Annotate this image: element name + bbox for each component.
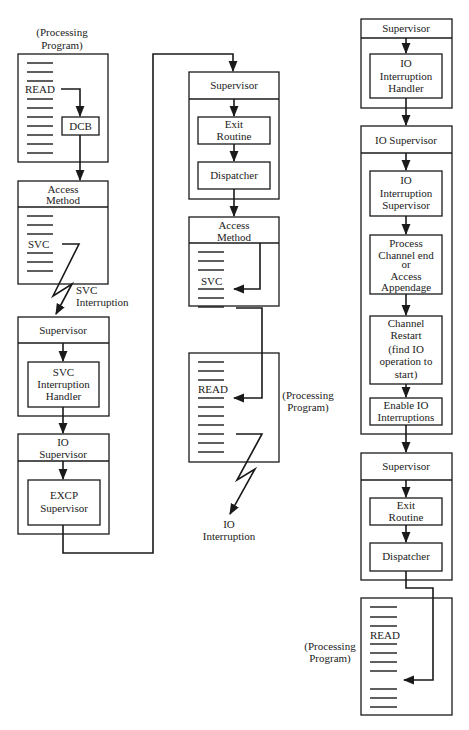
dispatcher-label: Dispatcher: [210, 169, 258, 181]
ios-label-1: IO: [400, 174, 412, 186]
io-interruption-label-1: IO: [223, 518, 235, 530]
supervisor-bottom-title: Supervisor: [382, 460, 430, 472]
enable-label-2: Interruptions: [378, 411, 435, 423]
dispatcher-to-program-arrow: [404, 571, 433, 680]
exit-routine-label-1: Exit: [225, 118, 243, 130]
return-to-svc-arrow: [234, 243, 260, 289]
io-supervisor-title: IO Supervisor: [375, 134, 437, 146]
enable-label-1: Enable IO: [384, 399, 429, 411]
excp-label-1: EXCP: [50, 489, 78, 501]
io-supervisor-title-1: IO: [57, 436, 69, 448]
access-method-title-2: Method: [46, 194, 81, 206]
ios-label-2: Interruption: [380, 187, 433, 199]
svc-handler-label-2: Interruption: [37, 378, 90, 390]
svc-interruption-label-2: Interruption: [76, 296, 129, 308]
supervisor-title: Supervisor: [210, 79, 258, 91]
read-to-dcb-arrow: [61, 89, 80, 116]
restart-label-5: start): [395, 368, 418, 381]
svc-handler-label-1: SVC: [53, 366, 74, 378]
io-flow-diagram: (Processing Program) READ DCB Access Met…: [0, 0, 469, 730]
column-2: Supervisor Exit Routine Dispatcher Acces…: [189, 72, 334, 542]
access-method-title-2: Method: [217, 231, 252, 243]
supervisor-top-title: Supervisor: [382, 22, 430, 34]
code-lines: [370, 607, 397, 707]
io-interruption-arrow: [230, 434, 262, 514]
proc-label-5: Appendage: [381, 281, 431, 293]
restart-label-4: operation to: [380, 355, 433, 367]
supervisor-title: Supervisor: [39, 324, 87, 336]
read-statement: READ: [198, 383, 228, 395]
svc-statement: SVC: [28, 238, 49, 250]
restart-label-1: Channel: [388, 317, 425, 329]
exit-routine-label-2: Routine: [217, 130, 252, 142]
proc-label-1: Process: [389, 237, 423, 249]
svc-statement: SVC: [201, 275, 222, 287]
processing-program-caption-2: Program): [287, 401, 329, 414]
exit-routine-label-1: Exit: [397, 499, 415, 511]
read-statement: READ: [370, 629, 400, 641]
code-lines: [27, 63, 53, 153]
ios-label-3: Supervisor: [382, 199, 430, 211]
proc-label-3: or: [401, 258, 411, 270]
io-supervisor-title-2: Supervisor: [39, 448, 87, 460]
code-lines: [198, 362, 224, 452]
processing-program-caption-2: Program): [309, 652, 351, 665]
access-method-title-1: Access: [218, 219, 249, 231]
excp-label-2: Supervisor: [40, 502, 88, 514]
svc-handler-label-3: Handler: [46, 390, 82, 402]
dcb-label: DCB: [69, 120, 92, 132]
column-3: Supervisor IO Interruption Handler IO Su…: [304, 19, 452, 715]
svc-interruption-label-1: SVC: [76, 284, 97, 296]
io-handler-label-1: IO: [400, 57, 412, 69]
processing-program-caption-2: Program): [41, 39, 83, 52]
io-handler-label-2: Interruption: [380, 70, 433, 82]
exit-routine-label-2: Routine: [389, 511, 424, 523]
dispatcher-label: Dispatcher: [382, 550, 430, 562]
io-interruption-label-2: Interruption: [203, 530, 256, 542]
read-statement: READ: [25, 83, 55, 95]
restart-label-2: Restart: [390, 329, 421, 341]
io-handler-label-3: Handler: [388, 82, 424, 94]
processing-program-caption-1: (Processing: [36, 26, 88, 39]
